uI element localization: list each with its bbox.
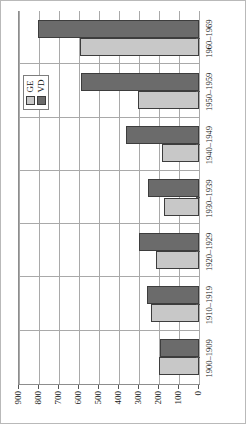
category-tick: [196, 251, 200, 252]
legend-item-ge: GE: [26, 80, 35, 105]
category-label: 1940–1949: [204, 126, 214, 164]
bar-ge-5: [138, 91, 199, 109]
category-label: 1960–1969: [204, 20, 214, 58]
value-tick-label: 300: [133, 391, 143, 405]
value-tick-label: 400: [113, 391, 123, 405]
value-tick-mark: [138, 385, 139, 389]
value-tick-label: 100: [173, 391, 183, 405]
bar-vd-6: [38, 20, 199, 38]
category-tick: [196, 144, 200, 145]
bar-vd-5: [81, 73, 199, 91]
plot-area: GE VD: [18, 11, 200, 385]
bar-vd-2: [139, 233, 199, 251]
bar-ge-3: [164, 198, 199, 216]
category-tick: [196, 91, 200, 92]
bar-ge-2: [156, 251, 199, 269]
category-tick: [196, 38, 200, 39]
value-tick-label: 200: [153, 391, 163, 405]
category-tick: [196, 357, 200, 358]
scanned-page-frame: 0100200300400500600700800900 GE VD 1900–…: [0, 0, 246, 424]
bar-ge-4: [162, 144, 199, 162]
value-tick-mark: [18, 385, 19, 389]
bars-layer: [19, 11, 199, 384]
category-label: 1950–1959: [204, 73, 214, 111]
legend-label-ge: GE: [26, 81, 35, 93]
value-tick-mark: [38, 385, 39, 389]
bar-ge-6: [80, 38, 199, 56]
value-tick-label: 800: [33, 391, 43, 405]
category-label: 1920–1929: [204, 233, 214, 271]
bar-vd-3: [148, 179, 199, 197]
value-tick-mark: [198, 385, 199, 389]
bar-vd-0: [160, 339, 199, 357]
bar-ge-0: [159, 357, 199, 375]
value-tick-label: 700: [53, 391, 63, 405]
category-tick: [196, 198, 200, 199]
value-axis: 0100200300400500600700800900: [18, 385, 200, 423]
chart-figure: 0100200300400500600700800900 GE VD 1900–…: [0, 0, 246, 424]
bar-ge-1: [151, 304, 199, 322]
value-tick-mark: [178, 385, 179, 389]
value-tick-label: 900: [13, 391, 23, 405]
value-tick-mark: [118, 385, 119, 389]
chart-legend: GE VD: [23, 75, 49, 110]
value-tick-mark: [78, 385, 79, 389]
bar-vd-4: [126, 126, 199, 144]
category-label: 1910–1919: [204, 286, 214, 324]
legend-swatch-vd-icon: [37, 96, 46, 105]
category-tick: [196, 304, 200, 305]
legend-label-vd: VD: [37, 80, 46, 93]
value-tick-mark: [58, 385, 59, 389]
category-label: 1930–1939: [204, 179, 214, 217]
category-axis: 1900–19091910–19191920–19291930–19391940…: [200, 11, 245, 385]
rotated-chart-container: 0100200300400500600700800900 GE VD 1900–…: [0, 0, 246, 424]
category-label: 1900–1909: [204, 339, 214, 377]
value-tick-label: 0: [193, 391, 203, 396]
value-tick-label: 500: [93, 391, 103, 405]
legend-item-vd: VD: [37, 80, 46, 105]
value-tick-label: 600: [73, 391, 83, 405]
value-tick-mark: [98, 385, 99, 389]
legend-swatch-ge-icon: [26, 96, 35, 105]
value-tick-mark: [158, 385, 159, 389]
bar-vd-1: [147, 286, 199, 304]
